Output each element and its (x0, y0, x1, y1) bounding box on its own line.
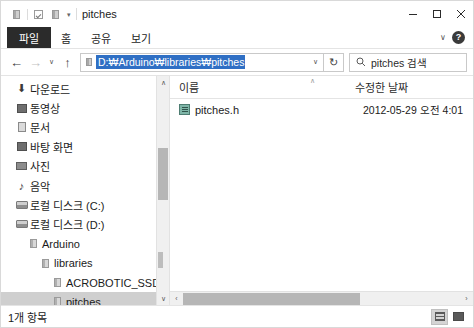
scroll-up-icon[interactable]: ∧ (157, 76, 169, 89)
column-headers: 이름 수정한 날짜 ∧ (170, 76, 473, 99)
search-placeholder: pitches 검색 (371, 55, 427, 70)
search-icon (356, 53, 366, 71)
sidebar-item-downloads[interactable]: ⬇ 다운로드 (1, 79, 169, 98)
folder-icon (25, 239, 42, 248)
quick-access-toolbar: ▾ (8, 6, 74, 23)
column-header-date[interactable]: 수정한 날짜 (353, 79, 473, 95)
sidebar-item-local-disk-c[interactable]: 로컬 디스크 (C:) (1, 195, 169, 214)
sidebar-item-label: libraries (54, 257, 93, 269)
chevron-down-icon[interactable]: ▾ (64, 11, 74, 18)
sidebar-item-label: 로컬 디스크 (D:) (30, 216, 104, 232)
chevron-down-icon[interactable]: ∨ (307, 58, 323, 66)
explorer-body: ⬇ 다운로드 동영상 문서 바탕 화면 사진 (1, 75, 473, 305)
ribbon-tabs: 파일 홈 공유 보기 ∨ ? (1, 27, 473, 49)
new-folder-icon[interactable] (47, 6, 64, 23)
scrollbar-track[interactable] (183, 292, 460, 306)
music-icon: ♪ (13, 180, 30, 192)
details-view-button[interactable] (431, 309, 448, 325)
item-count-label: 1개 항목 (8, 309, 47, 325)
tab-share[interactable]: 공유 (81, 27, 121, 48)
horizontal-scrollbar[interactable]: ‹ › (170, 291, 473, 305)
header-file-icon (179, 104, 190, 115)
sidebar-item-label: 다운로드 (30, 81, 70, 97)
scroll-left-icon[interactable]: ‹ (170, 295, 183, 302)
sidebar-item-arduino[interactable]: Arduino (1, 234, 169, 253)
drive-icon (13, 201, 30, 209)
file-rows: pitches.h 2012-05-29 오전 4:01 (170, 99, 473, 291)
sidebar-item-documents[interactable]: 문서 (1, 118, 169, 137)
sidebar-item-label: 음악 (30, 178, 50, 194)
sidebar-item-label: 사진 (30, 158, 50, 174)
scrollbar-thumb[interactable] (183, 293, 360, 305)
file-date-cell: 2012-05-29 오전 4:01 (353, 102, 473, 117)
file-explorer-window: ▾ pitches 파일 홈 공유 보기 ∨ ? ← → ∨ ↑ (0, 0, 474, 328)
video-icon (13, 104, 30, 113)
sidebar-item-local-disk-d[interactable]: 로컬 디스크 (D:) (1, 215, 169, 234)
table-row[interactable]: pitches.h 2012-05-29 오전 4:01 (170, 99, 473, 120)
drive-icon (13, 220, 30, 228)
sidebar-item-label: Arduino (42, 238, 80, 250)
scroll-down-icon[interactable]: ∨ (157, 292, 169, 305)
sort-ascending-icon: ∧ (310, 77, 315, 85)
file-name-label: pitches.h (195, 104, 239, 116)
up-button[interactable]: ↑ (58, 51, 77, 73)
navigation-pane-scrollbar[interactable]: ∧ ∨ (156, 76, 169, 305)
folder-tree: ⬇ 다운로드 동영상 문서 바탕 화면 사진 (1, 76, 169, 305)
refresh-button[interactable]: ↻ (324, 53, 344, 72)
search-input[interactable]: pitches 검색 (349, 53, 467, 72)
forward-button[interactable]: → (26, 51, 45, 73)
tab-view[interactable]: 보기 (121, 27, 161, 48)
sidebar-item-label: pitches (66, 296, 101, 305)
sidebar-item-pictures[interactable]: 사진 (1, 157, 169, 176)
properties-check-icon[interactable] (30, 6, 47, 23)
tab-file[interactable]: 파일 (7, 27, 51, 48)
scrollbar-thumb[interactable] (158, 148, 168, 200)
column-header-name[interactable]: 이름 (170, 79, 353, 95)
title-divider (76, 8, 77, 20)
navigation-pane: ⬇ 다운로드 동영상 문서 바탕 화면 사진 (1, 76, 169, 305)
desktop-icon (13, 142, 30, 151)
sidebar-item-videos[interactable]: 동영상 (1, 98, 169, 117)
sidebar-item-desktop[interactable]: 바탕 화면 (1, 137, 169, 156)
sidebar-item-label: ACROBOTIC_SSD1306 (66, 277, 169, 289)
maximize-button[interactable] (425, 1, 449, 27)
sidebar-item-label: 동영상 (30, 100, 60, 116)
recent-locations-button[interactable]: ∨ (45, 51, 58, 73)
folder-icon (37, 259, 54, 268)
window-title: pitches (82, 8, 117, 20)
address-bar: ← → ∨ ↑ D:₩Arduino₩libraries₩pitches ∨ ↻… (1, 49, 473, 75)
document-icon (13, 122, 30, 132)
sidebar-item-acrobotic-ssd1306[interactable]: ACROBOTIC_SSD1306 (1, 273, 169, 292)
status-bar: 1개 항목 (1, 305, 473, 327)
close-button[interactable] (449, 1, 473, 27)
minimize-button[interactable] (401, 1, 425, 27)
large-icons-view-button[interactable] (450, 309, 467, 325)
back-button[interactable]: ← (7, 51, 26, 73)
folder-icon[interactable] (8, 6, 25, 23)
address-input[interactable]: D:₩Arduino₩libraries₩pitches ∨ (80, 53, 324, 72)
pictures-icon (13, 162, 30, 170)
view-mode-buttons (431, 309, 473, 325)
address-path-text: D:₩Arduino₩libraries₩pitches (96, 55, 245, 69)
sidebar-item-label: 문서 (30, 119, 50, 135)
sidebar-item-music[interactable]: ♪ 음악 (1, 176, 169, 195)
folder-icon (49, 297, 66, 305)
scroll-right-icon[interactable]: › (460, 295, 473, 302)
sidebar-item-pitches[interactable]: pitches (1, 292, 169, 305)
help-icon[interactable]: ? (452, 31, 465, 44)
folder-icon (49, 278, 66, 287)
chevron-down-icon[interactable]: ∨ (440, 33, 446, 42)
title-bar: ▾ pitches (1, 1, 473, 27)
file-list-pane: 이름 수정한 날짜 ∧ pitches.h 2012-05-29 오전 4:01… (169, 76, 473, 305)
folder-icon (81, 58, 96, 66)
ribbon-right-controls: ∨ ? (440, 27, 473, 48)
sidebar-item-label: 바탕 화면 (30, 139, 73, 155)
download-icon: ⬇ (13, 82, 30, 95)
file-name-cell: pitches.h (170, 104, 353, 116)
scrollbar-secondary-thumb[interactable] (158, 252, 163, 268)
sidebar-item-label: 로컬 디스크 (C:) (30, 197, 104, 213)
window-controls (401, 1, 473, 27)
qat-divider (27, 9, 28, 20)
tab-home[interactable]: 홈 (51, 27, 81, 48)
sidebar-item-libraries[interactable]: libraries (1, 254, 169, 273)
